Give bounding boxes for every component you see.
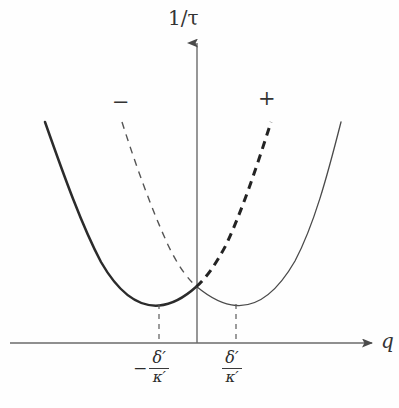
figure-container: 1/τ q − + − δ′ κ′ δ′ κ′ <box>0 0 399 408</box>
tick-right-denominator: κ′ <box>222 369 241 386</box>
x-axis-label: q <box>381 331 394 351</box>
x-tick-label-right: δ′ κ′ <box>222 350 242 386</box>
tick-left-denominator: κ′ <box>150 369 169 386</box>
plus-branch-annotation: + <box>258 88 276 109</box>
plot-canvas <box>0 0 399 408</box>
tick-left-minus-sign: − <box>133 358 147 378</box>
tick-left-fraction: δ′ κ′ <box>149 350 169 386</box>
plus-branch-solid-curve <box>197 122 342 306</box>
tick-left-numerator: δ′ <box>150 350 169 368</box>
minus-branch-solid-curve <box>45 122 197 306</box>
minus-branch-dashed-curve <box>122 122 197 287</box>
plus-branch-dashed-curve <box>197 122 272 287</box>
tick-right-numerator: δ′ <box>222 350 241 368</box>
minus-branch-annotation: − <box>112 92 130 113</box>
x-tick-label-left: − δ′ κ′ <box>133 350 169 386</box>
y-axis-label: 1/τ <box>168 8 199 28</box>
tick-right-fraction: δ′ κ′ <box>222 350 242 386</box>
